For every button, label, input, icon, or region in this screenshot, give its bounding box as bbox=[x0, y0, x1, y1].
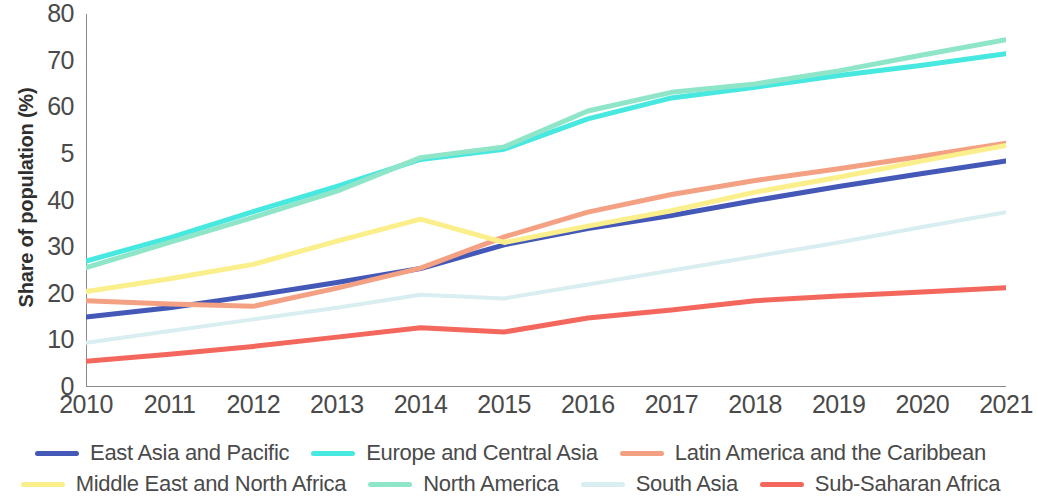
legend-label: Sub-Saharan Africa bbox=[815, 473, 1000, 495]
legend-label: Middle East and North Africa bbox=[76, 473, 346, 495]
legend-label: East Asia and Pacific bbox=[90, 442, 289, 464]
legend-row: Middle East and North AfricaNorth Americ… bbox=[0, 473, 1021, 495]
legend-item[interactable]: South Asia bbox=[581, 473, 738, 495]
y-tick-label: 70 bbox=[26, 48, 74, 73]
x-tick-label: 2021 bbox=[956, 392, 1037, 417]
plot-svg bbox=[86, 10, 1006, 387]
legend-item[interactable]: Middle East and North Africa bbox=[21, 473, 346, 495]
legend-item[interactable]: Europe and Central Asia bbox=[311, 442, 598, 464]
legend-item[interactable]: Latin America and the Caribbean bbox=[620, 442, 986, 464]
legend-swatch-icon bbox=[760, 482, 804, 487]
legend-swatch-icon bbox=[581, 482, 625, 487]
y-axis-tick-labels: 0102030405607080 bbox=[20, 0, 74, 400]
legend-swatch-icon bbox=[21, 482, 65, 487]
legend-row: East Asia and PacificEurope and Central … bbox=[0, 442, 1021, 464]
series-line bbox=[86, 54, 1006, 261]
chart-legend: East Asia and PacificEurope and Central … bbox=[0, 442, 1021, 504]
y-tick-label: 60 bbox=[26, 94, 74, 119]
legend-swatch-icon bbox=[35, 451, 79, 456]
legend-item[interactable]: North America bbox=[368, 473, 558, 495]
y-tick-label: 10 bbox=[26, 327, 74, 352]
y-tick-label: 40 bbox=[26, 188, 74, 213]
plot-area bbox=[86, 10, 1006, 387]
legend-swatch-icon bbox=[620, 451, 664, 456]
legend-label: Latin America and the Caribbean bbox=[675, 442, 986, 464]
legend-label: North America bbox=[423, 473, 558, 495]
x-axis-tick-labels: 2010201120122013201420152016201720182019… bbox=[86, 392, 1006, 432]
y-tick-label: 5 bbox=[26, 141, 74, 166]
legend-label: Europe and Central Asia bbox=[366, 442, 598, 464]
y-tick-label: 30 bbox=[26, 234, 74, 259]
legend-swatch-icon bbox=[368, 482, 412, 487]
legend-swatch-icon bbox=[311, 451, 355, 456]
y-tick-label: 80 bbox=[26, 1, 74, 26]
y-tick-label: 20 bbox=[26, 281, 74, 306]
legend-label: South Asia bbox=[636, 473, 738, 495]
legend-item[interactable]: Sub-Saharan Africa bbox=[760, 473, 1000, 495]
legend-item[interactable]: East Asia and Pacific bbox=[35, 442, 289, 464]
